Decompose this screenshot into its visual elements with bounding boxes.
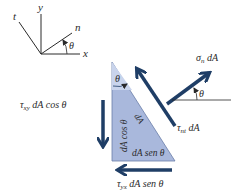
- normal-theta-label: θ: [199, 88, 204, 99]
- n-axis: [41, 33, 72, 54]
- x-axis-label: x: [82, 47, 88, 59]
- normal-stress-label: σn dA: [196, 52, 219, 65]
- vertical-face-label: dA cos θ: [119, 119, 129, 152]
- normal-theta-arc-icon: [194, 88, 197, 100]
- bottom-face-label: dA sen θ: [132, 148, 165, 158]
- n-axis-label: n: [75, 21, 81, 33]
- coordinate-axes: t y n x θ: [13, 1, 88, 59]
- element-theta-label: θ: [115, 73, 120, 84]
- t-axis-label: t: [13, 10, 17, 22]
- shear-nt-label: τnt dA: [177, 122, 201, 135]
- stress-element-diagram: t y n x θ θ dA dA cos θ dA sen θ σn dA θ: [0, 0, 231, 193]
- shear-xy-label: τxy dA cos θ: [20, 99, 67, 112]
- shear-yx-label: τyx dA sen θ: [117, 178, 164, 191]
- t-axis: [19, 22, 41, 54]
- axes-theta-label: θ: [69, 40, 74, 51]
- theta-arc-icon: [63, 40, 67, 54]
- y-axis-label: y: [37, 1, 43, 13]
